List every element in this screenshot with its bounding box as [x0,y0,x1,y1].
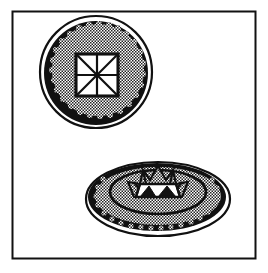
bottom-disc [86,162,230,236]
square-cross-motif [76,54,118,96]
illustration-canvas [0,0,268,273]
top-disc [40,16,152,128]
